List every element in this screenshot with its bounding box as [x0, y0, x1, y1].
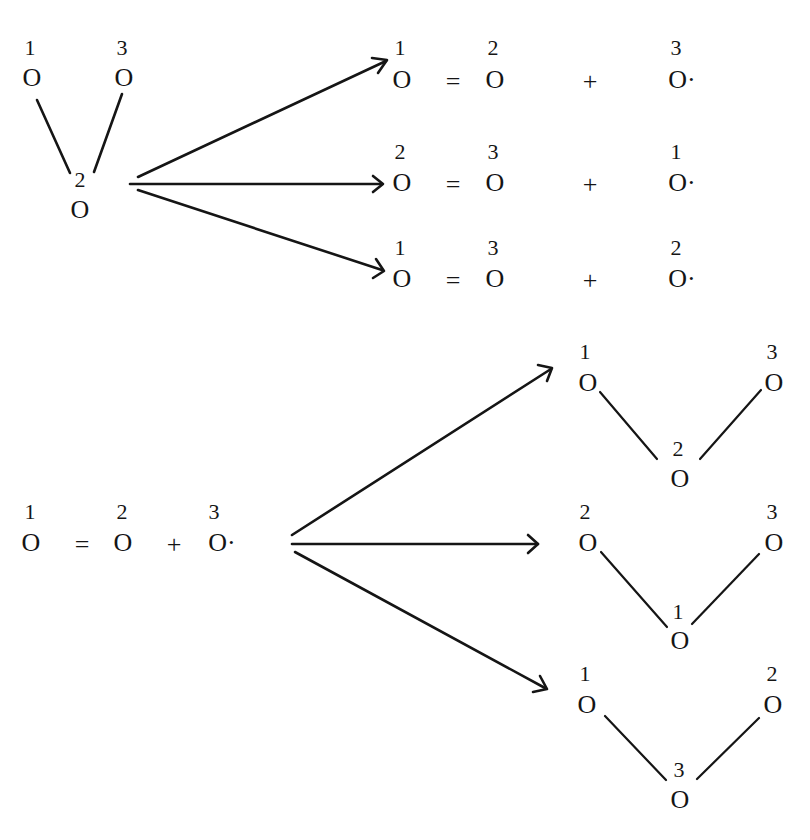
oxygen-atom: O	[393, 170, 412, 196]
bond-m2-right	[692, 554, 759, 624]
oxygen-atom: O	[765, 370, 784, 396]
atom-label: 2	[580, 501, 591, 523]
oxygen-atom: O	[71, 197, 90, 223]
oxygen-atom: O	[22, 530, 41, 556]
atom-label: 2	[117, 501, 128, 523]
oxygen-atom: O	[579, 530, 598, 556]
oxygen-atom: O	[671, 466, 690, 492]
atom-label: 2	[75, 169, 86, 191]
bond-m3-right	[697, 718, 759, 779]
atom-label: 2	[671, 237, 682, 259]
atom-label: 2	[767, 663, 778, 685]
bond-m2-left	[601, 552, 667, 627]
atom-label: 1	[580, 341, 591, 363]
arrow-top-2	[130, 176, 383, 192]
atom-label: 3	[674, 759, 685, 781]
oxygen-atom: O	[23, 65, 42, 91]
double-bond-sign: =	[446, 268, 461, 294]
oxygen-atom: O	[671, 628, 690, 654]
oxygen-atom: O	[579, 370, 598, 396]
atom-label: 3	[488, 237, 499, 259]
bond-m1-right	[700, 390, 761, 459]
oxygen-atom: O	[765, 530, 784, 556]
atom-label: 1	[25, 501, 36, 523]
atom-label: 3	[767, 501, 778, 523]
plus-sign: +	[583, 69, 598, 95]
plus-sign: +	[583, 268, 598, 294]
bond-m1-left	[600, 392, 657, 459]
atom-label: 1	[25, 37, 36, 59]
oxygen-atom: O	[393, 67, 412, 93]
oxygen-atom: O	[393, 266, 412, 292]
oxygen-atom: O	[486, 67, 505, 93]
arrow-bottom-2	[292, 535, 538, 553]
double-bond-sign: =	[75, 532, 90, 558]
atom-label: 3	[117, 37, 128, 59]
arrow-top-3	[138, 190, 384, 278]
atom-label: 1	[671, 141, 682, 163]
arrow-bottom-1	[292, 365, 552, 535]
atom-label: 3	[488, 141, 499, 163]
double-bond-sign: =	[446, 172, 461, 198]
oxygen-radical: O·	[208, 530, 235, 556]
plus-sign: +	[167, 532, 182, 558]
oxygen-radical: O·	[668, 67, 695, 93]
atom-label: 2	[488, 37, 499, 59]
oxygen-radical: O·	[668, 170, 695, 196]
atom-label: 1	[395, 37, 406, 59]
atom-label: 1	[395, 237, 406, 259]
atom-label: 2	[673, 438, 684, 460]
oxygen-atom: O	[486, 170, 505, 196]
plus-sign: +	[583, 172, 598, 198]
atom-label: 2	[395, 141, 406, 163]
double-bond-sign: =	[446, 69, 461, 95]
atom-label: 1	[580, 663, 591, 685]
oxygen-atom: O	[671, 787, 690, 813]
arrow-top-1	[138, 58, 387, 177]
atom-label: 3	[671, 37, 682, 59]
bond-top-1-2	[37, 100, 70, 173]
atom-label: 3	[767, 341, 778, 363]
oxygen-atom: O	[114, 530, 133, 556]
bond-top-3-2	[94, 94, 122, 172]
bond-m3-left	[605, 716, 666, 780]
atom-label: 1	[673, 601, 684, 623]
diagram-lines	[0, 0, 810, 840]
oxygen-radical: O·	[668, 266, 695, 292]
oxygen-atom: O	[486, 266, 505, 292]
oxygen-atom: O	[578, 692, 597, 718]
oxygen-atom: O	[764, 692, 783, 718]
oxygen-atom: O	[115, 65, 134, 91]
arrow-bottom-3	[295, 552, 547, 692]
atom-label: 3	[209, 501, 220, 523]
